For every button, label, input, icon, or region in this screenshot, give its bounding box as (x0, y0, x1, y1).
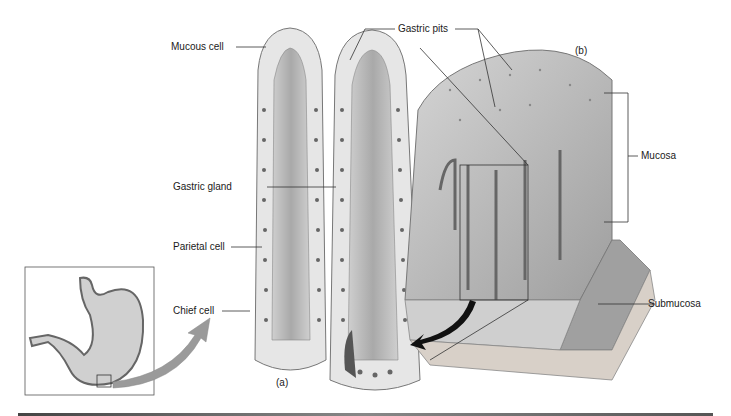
stomach-wall-diagram (0, 0, 731, 416)
label-mucosa: Mucosa (641, 150, 676, 161)
label-gastric-gland: Gastric gland (173, 181, 232, 192)
label-gastric-pits: Gastric pits (398, 23, 448, 34)
label-mucous-cell: Mucous cell (171, 41, 224, 52)
mucosa-block (405, 50, 655, 380)
label-parietal-cell: Parietal cell (173, 241, 225, 252)
label-submucosa: Submucosa (648, 298, 701, 309)
label-chief-cell: Chief cell (173, 305, 214, 316)
panel-label-a: (a) (276, 377, 288, 388)
stomach-inset (25, 267, 154, 395)
gastric-gland-right (330, 30, 420, 390)
panel-label-b: (b) (575, 45, 587, 56)
